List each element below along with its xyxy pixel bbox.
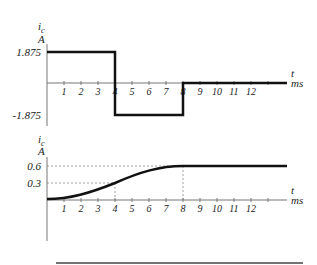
top-y-axis-unit: A xyxy=(37,33,45,45)
svg-text:1: 1 xyxy=(62,203,67,214)
top-x-axis-unit: ms xyxy=(291,77,303,89)
bottom-y-tick-03: 0.3 xyxy=(27,177,41,189)
svg-text:4: 4 xyxy=(113,203,118,214)
svg-text:3: 3 xyxy=(95,86,101,97)
svg-text:1: 1 xyxy=(62,86,67,97)
svg-text:8: 8 xyxy=(181,203,186,214)
top-y-tick-high: 1.875 xyxy=(16,46,41,58)
bottom-y-axis-unit: A xyxy=(37,145,45,157)
svg-text:10: 10 xyxy=(212,203,222,214)
svg-text:5: 5 xyxy=(130,203,135,214)
top-chart: ic A 1.875 -1.875 1 2 3 4 xyxy=(13,20,304,126)
top-y-tick-low: -1.875 xyxy=(13,109,42,121)
svg-text:6: 6 xyxy=(147,203,152,214)
chart-figure: ic A 1.875 -1.875 1 2 3 4 xyxy=(0,0,317,265)
svg-text:12: 12 xyxy=(246,203,256,214)
svg-text:12: 12 xyxy=(246,86,256,97)
bottom-x-axis-unit: ms xyxy=(291,194,303,206)
svg-text:3: 3 xyxy=(95,203,101,214)
bottom-x-tick-labels: 1 2 3 4 5 6 7 8 9 10 11 12 xyxy=(62,203,257,214)
svg-text:9: 9 xyxy=(198,203,203,214)
svg-text:5: 5 xyxy=(130,86,135,97)
bottom-series-curve xyxy=(47,166,287,199)
svg-text:2: 2 xyxy=(79,86,84,97)
svg-text:7: 7 xyxy=(164,203,170,214)
svg-text:6: 6 xyxy=(147,86,152,97)
bottom-y-tick-06: 0.6 xyxy=(27,160,41,172)
svg-text:9: 9 xyxy=(198,86,203,97)
svg-text:2: 2 xyxy=(79,203,84,214)
svg-text:11: 11 xyxy=(229,86,238,97)
bottom-chart: ic A 0.6 0.3 1 xyxy=(27,133,303,241)
svg-text:11: 11 xyxy=(229,203,238,214)
svg-text:7: 7 xyxy=(164,86,170,97)
svg-text:10: 10 xyxy=(212,86,222,97)
top-x-tick-labels: 1 2 3 4 5 6 7 8 9 10 11 12 xyxy=(62,86,257,97)
